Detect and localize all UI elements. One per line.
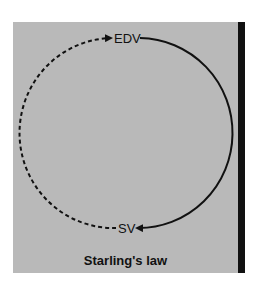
- dashed-arrow-sv-to-edv: [20, 38, 116, 228]
- diagram-caption: Starling's law: [0, 254, 251, 268]
- node-label-sv: SV: [118, 222, 135, 235]
- node-label-edv: EDV: [114, 32, 141, 45]
- solid-arrow-edv-to-sv: [137, 38, 233, 228]
